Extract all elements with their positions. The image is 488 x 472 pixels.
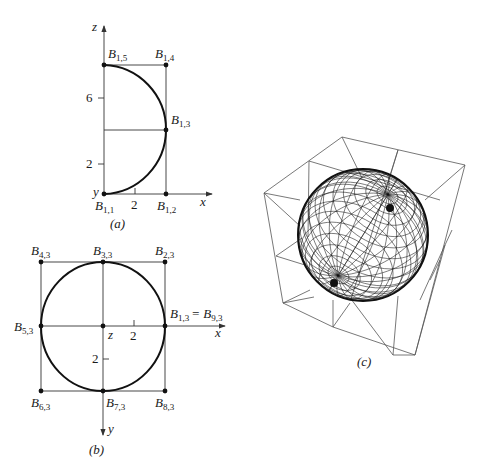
x-axis-label-b: x [214,325,221,340]
point-b53 [39,324,44,329]
tick-x-2: 2 [131,197,138,212]
z-axis-label: z [91,19,97,34]
label-b83: B8,3 [155,395,175,412]
wireframe-sphere [298,169,428,301]
panel-c: (c) [264,137,465,369]
tick-z-6: 6 [86,90,93,105]
control-polygon [104,65,166,194]
label-b15: B1,5 [108,46,128,63]
caption-c: (c) [357,354,371,369]
point-b13 [163,324,168,329]
panel-a: z x y 6 2 2 B1,5 B1,4 B1,3 B1,1 B1,2 (a) [86,19,212,231]
point-b43 [39,260,44,265]
point-b14 [164,63,169,68]
x-axis-label: x [199,194,206,209]
caption-b: (b) [89,442,104,457]
point-b12 [164,192,169,197]
point-b15 [102,63,107,68]
label-b13-eq-b93: B1,3= B9,3 [170,306,223,323]
sphere-pole-bottom [330,279,338,287]
label-b14: B1,4 [155,46,175,63]
point-b13 [164,128,169,133]
label-b33: B3,3 [93,243,113,260]
label-b53: B5,3 [14,319,34,336]
label-b73: B7,3 [106,395,126,412]
label-b11: B1,1 [95,198,114,215]
point-b73 [101,389,106,394]
label-b13: B1,3 [171,112,191,129]
origin-label: y [91,184,99,199]
label-b63: B6,3 [31,395,51,412]
point-origin [101,324,106,329]
tick-x-2-b: 2 [130,328,137,343]
figure-canvas: z x y 6 2 2 B1,5 B1,4 B1,3 B1,1 B1,2 (a)… [0,0,488,472]
point-b11 [102,192,107,197]
panel-b: B4,3 B3,3 B2,3 B1,3= B9,3 B5,3 B6,3 B7,3… [14,243,225,457]
sphere-pole-top [386,204,394,212]
point-b33 [101,260,106,265]
label-b43: B4,3 [31,243,51,260]
label-b23: B2,3 [155,243,175,260]
y-axis-label-b: y [106,421,114,436]
tick-y-2-b: 2 [92,351,99,366]
point-b23 [163,260,168,265]
point-b83 [163,389,168,394]
tick-z-2: 2 [86,156,93,171]
semicircle-curve [104,65,166,194]
point-b63 [39,389,44,394]
label-b12: B1,2 [157,198,176,215]
origin-label-b: z [107,327,113,342]
caption-a: (a) [110,216,125,231]
